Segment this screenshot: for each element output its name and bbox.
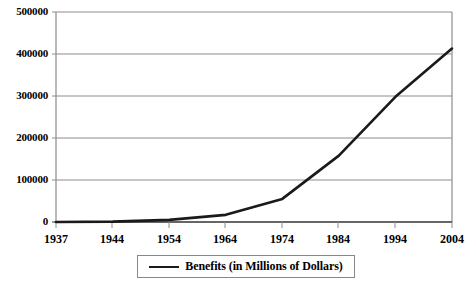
y-axis-label-100000: 100000 <box>0 173 48 185</box>
x-axis-label-2004: 2004 <box>422 232 466 247</box>
x-axis-label-1984: 1984 <box>308 232 368 247</box>
y-axis-label-0: 0 <box>0 215 48 227</box>
chart-legend: Benefits (in Millions of Dollars) <box>137 255 355 278</box>
x-axis-label-1954: 1954 <box>139 232 199 247</box>
y-axis-label-400000: 400000 <box>0 47 48 59</box>
plot-background <box>56 12 452 222</box>
legend-label-benefits: Benefits (in Millions of Dollars) <box>185 259 342 274</box>
x-axis-label-1994: 1994 <box>365 232 425 247</box>
y-axis-label-500000: 500000 <box>0 5 48 17</box>
legend-entry-benefits: Benefits (in Millions of Dollars) <box>138 256 354 277</box>
legend-line-swatch <box>149 266 179 268</box>
y-axis-label-200000: 200000 <box>0 131 48 143</box>
x-tick-marks <box>56 222 452 228</box>
x-axis-label-1974: 1974 <box>252 232 312 247</box>
y-axis-label-300000: 300000 <box>0 89 48 101</box>
line-chart: 500000 400000 300000 200000 100000 0 193… <box>0 0 466 285</box>
x-axis-label-1964: 1964 <box>195 232 255 247</box>
x-axis-label-1944: 1944 <box>82 232 142 247</box>
x-axis-label-1937: 1937 <box>26 232 86 247</box>
